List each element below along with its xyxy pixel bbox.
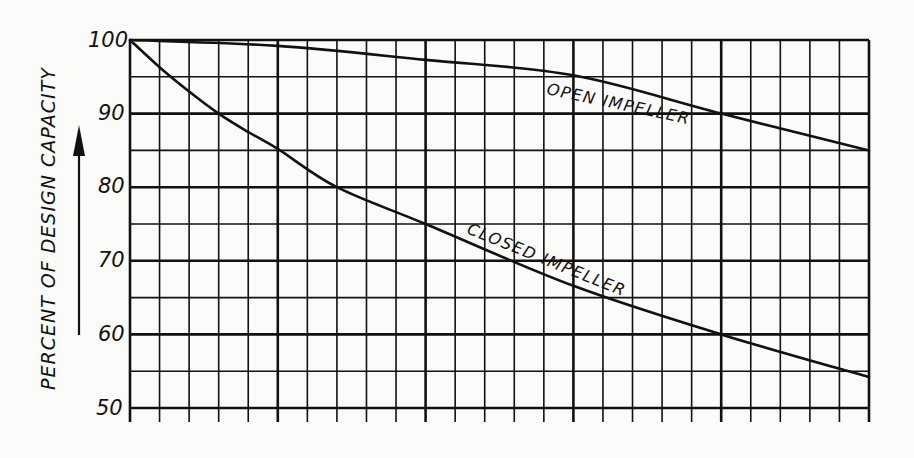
up-arrow-icon <box>73 125 85 335</box>
capacity-chart: 100 90 80 70 60 50 PERCENT OF DESIGN CAP… <box>0 0 914 458</box>
chart-curves <box>130 40 869 377</box>
closed-impeller-curve <box>130 40 869 377</box>
y-axis-ticks: 100 90 80 70 60 50 <box>88 28 128 420</box>
ytick-50: 50 <box>96 396 123 420</box>
ytick-100: 100 <box>88 28 128 52</box>
open-impeller-curve <box>130 40 869 150</box>
y-axis-title: PERCENT OF DESIGN CAPACITY <box>37 67 59 390</box>
ytick-90: 90 <box>98 101 125 125</box>
ytick-80: 80 <box>98 174 125 198</box>
ytick-60: 60 <box>98 322 125 346</box>
ytick-70: 70 <box>98 248 125 272</box>
